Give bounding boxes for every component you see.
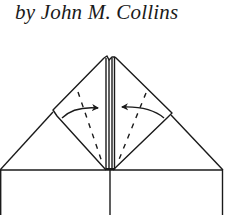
center-strip xyxy=(104,56,115,170)
outer-triangle-right xyxy=(171,115,223,170)
left-flap xyxy=(53,58,106,170)
outer-triangle-left xyxy=(0,112,53,170)
right-fold-arrow xyxy=(122,107,164,118)
origami-diagram xyxy=(0,0,226,215)
right-flap xyxy=(113,57,172,170)
left-fold-arrow xyxy=(62,108,98,118)
base-rectangle xyxy=(0,170,223,215)
